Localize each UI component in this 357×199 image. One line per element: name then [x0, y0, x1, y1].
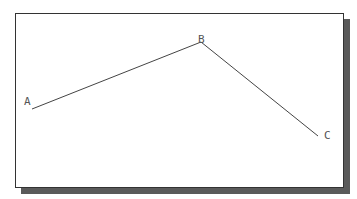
segment-bc [201, 42, 318, 136]
point-label-b: B [198, 33, 205, 46]
segment-ab [32, 42, 201, 109]
point-label-a: A [24, 95, 31, 108]
diagram-canvas: A B C [0, 0, 357, 199]
point-label-c: C [324, 129, 331, 142]
